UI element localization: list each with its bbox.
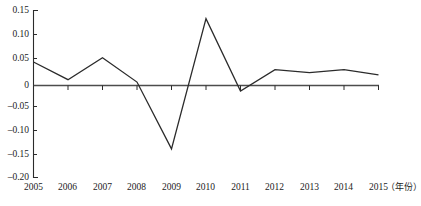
y-tick-label: –0.10 (0, 125, 29, 135)
y-tick-label: 0.15 (0, 5, 29, 15)
y-tick-label: 0 (0, 80, 29, 90)
x-tick-label: 2010 (186, 182, 225, 192)
y-tick-label: 0.10 (0, 29, 29, 39)
x-tick-label: 2012 (255, 182, 294, 192)
line-chart: 0.15 0.10 0.05 0 –0.05 –0.10 –0.15 –0.20… (0, 0, 421, 206)
x-tick-label: 2006 (48, 182, 87, 192)
y-tick-label: –0.20 (0, 172, 29, 182)
y-tick-label: 0.05 (0, 53, 29, 63)
x-axis-title: （年份） (386, 182, 421, 192)
x-tick-label: 2008 (117, 182, 156, 192)
data-series-line (34, 19, 379, 149)
chart-plot-area (0, 0, 421, 206)
y-tick-label: –0.05 (0, 101, 29, 111)
y-tick-label: –0.15 (0, 149, 29, 159)
x-tick-label: 2014 (324, 182, 363, 192)
